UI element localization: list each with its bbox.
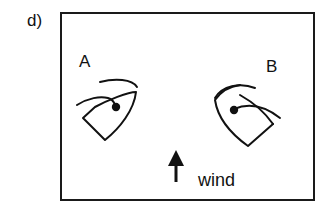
wind-label: wind [198, 170, 235, 191]
boat-b-mast-icon [230, 106, 238, 114]
boat-a-mast-icon [112, 103, 120, 111]
wind-arrow-icon [168, 150, 184, 182]
boat-a-icon [77, 80, 137, 140]
boat-b-icon [215, 85, 280, 146]
diagram-graphics [0, 0, 323, 208]
